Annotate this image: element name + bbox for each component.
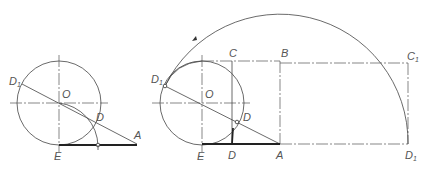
left-secant-D1-A (22, 84, 137, 144)
right-label-D1: D1 (151, 73, 163, 86)
left-label-E: E (54, 150, 62, 162)
left-label-D1: D1 (9, 75, 21, 88)
right-label-O: O (205, 88, 214, 100)
right-label-D-upper: D (243, 111, 251, 123)
left-figure: D1 O D A E (9, 55, 141, 162)
right-label-D1-right: D1 (405, 149, 417, 162)
left-label-A: A (133, 129, 141, 141)
left-arc-O-to-tangent (59, 103, 98, 146)
right-label-C1: C1 (407, 50, 419, 63)
large-arc-D1-to-D1 (165, 14, 408, 144)
right-point-D (235, 120, 239, 124)
right-label-B: B (281, 47, 288, 59)
right-label-A: A (275, 149, 283, 161)
right-secant-D1-A (165, 86, 280, 144)
right-label-E: E (197, 150, 205, 162)
right-figure: D1 O C B C1 D D E A D1 (151, 14, 419, 162)
right-point-D1 (163, 84, 167, 88)
right-label-D-lower: D (228, 149, 236, 161)
geometry-diagram: D1 O D A E D1 O C B C1 D D E A (0, 0, 423, 172)
left-label-O: O (62, 88, 71, 100)
arrow-D-up (232, 128, 233, 144)
arc-direction-arrow (192, 36, 197, 41)
right-label-C: C (229, 47, 237, 59)
arc-D1-to-top (165, 61, 202, 86)
left-label-D: D (96, 111, 104, 123)
